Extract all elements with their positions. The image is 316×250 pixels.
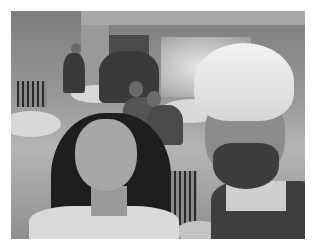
ceiling <box>81 11 305 25</box>
background-person <box>63 53 85 93</box>
selfie-photo <box>11 11 305 239</box>
man-beard <box>213 143 279 189</box>
background-person-head <box>129 81 143 97</box>
woman-face <box>75 119 137 191</box>
man-turban <box>194 43 294 121</box>
chair <box>17 81 47 107</box>
